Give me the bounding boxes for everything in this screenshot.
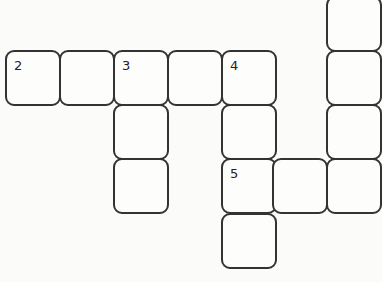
crossword-cell[interactable] xyxy=(113,104,169,160)
crossword-cell[interactable]: 4 xyxy=(221,50,277,106)
crossword-cell[interactable]: 5 xyxy=(221,158,277,214)
crossword-cell[interactable] xyxy=(59,50,115,106)
crossword-cell[interactable] xyxy=(326,50,382,106)
crossword-cell[interactable] xyxy=(113,158,169,214)
clue-number: 4 xyxy=(230,59,238,72)
crossword-cell[interactable] xyxy=(326,158,382,214)
crossword-cell[interactable] xyxy=(221,104,277,160)
crossword-cell[interactable] xyxy=(326,104,382,160)
clue-number: 3 xyxy=(122,59,130,72)
crossword-cell[interactable] xyxy=(221,213,277,269)
clue-number: 5 xyxy=(230,167,238,180)
crossword-cell[interactable] xyxy=(326,0,382,52)
crossword-cell[interactable]: 3 xyxy=(113,50,169,106)
crossword-cell[interactable]: 2 xyxy=(5,50,61,106)
clue-number: 2 xyxy=(14,59,22,72)
crossword-cell[interactable] xyxy=(167,50,223,106)
crossword-cell[interactable] xyxy=(272,158,328,214)
